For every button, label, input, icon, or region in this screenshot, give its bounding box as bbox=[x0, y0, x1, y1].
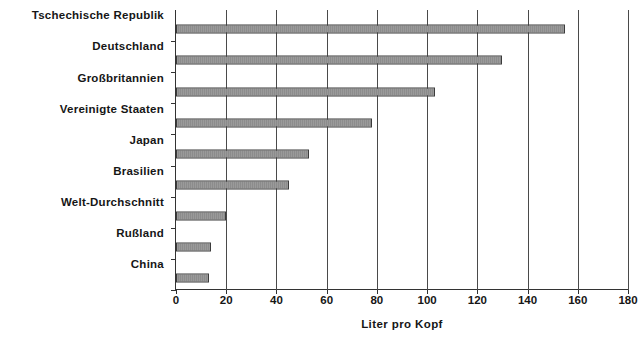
category-label: Rußland bbox=[0, 227, 164, 239]
category-label: Japan bbox=[0, 134, 164, 146]
category-label: Deutschland bbox=[0, 40, 164, 52]
bar bbox=[176, 180, 289, 189]
category-label: Welt-Durchschnitt bbox=[0, 196, 164, 208]
x-axis-tick-label: 160 bbox=[568, 294, 587, 306]
category-axis: Tschechische RepublikDeutschlandGroßbrit… bbox=[0, 10, 170, 290]
bar bbox=[176, 118, 372, 127]
gridline bbox=[327, 10, 328, 291]
bar bbox=[176, 149, 309, 158]
x-axis-line bbox=[175, 289, 629, 290]
bar bbox=[176, 87, 435, 96]
x-axis-tick-labels: 020406080100120140160180 bbox=[176, 294, 628, 312]
x-axis-tick-label: 60 bbox=[320, 294, 333, 306]
x-axis-tick-label: 0 bbox=[173, 294, 179, 306]
bar bbox=[176, 274, 209, 283]
y-axis-tick bbox=[171, 41, 176, 42]
gridline bbox=[377, 10, 378, 291]
x-axis-tick-label: 20 bbox=[220, 294, 233, 306]
x-axis-tick-label: 80 bbox=[370, 294, 383, 306]
x-axis-tick-label: 140 bbox=[518, 294, 537, 306]
y-axis-tick bbox=[171, 197, 176, 198]
bar bbox=[176, 56, 502, 65]
y-axis-tick bbox=[171, 259, 176, 260]
x-axis-tick-label: 120 bbox=[468, 294, 487, 306]
bar-chart: Tschechische RepublikDeutschlandGroßbrit… bbox=[0, 0, 639, 342]
y-axis-tick bbox=[171, 103, 176, 104]
x-axis-tick-label: 100 bbox=[418, 294, 437, 306]
x-axis-title: Liter pro Kopf bbox=[176, 318, 628, 330]
bar bbox=[176, 243, 211, 252]
y-axis-tick bbox=[171, 134, 176, 135]
y-axis-tick bbox=[171, 166, 176, 167]
category-label: Großbritannien bbox=[0, 72, 164, 84]
gridline bbox=[628, 10, 629, 291]
gridline bbox=[477, 10, 478, 291]
y-axis-tick bbox=[171, 228, 176, 229]
x-axis-tick-label: 180 bbox=[618, 294, 637, 306]
bar bbox=[176, 25, 565, 34]
category-label: China bbox=[0, 258, 164, 270]
x-axis-tick-label: 40 bbox=[270, 294, 283, 306]
category-label: Tschechische Republik bbox=[0, 9, 164, 21]
gridline bbox=[578, 10, 579, 291]
y-axis-tick bbox=[171, 72, 176, 73]
plot-area bbox=[176, 10, 628, 290]
y-axis-tick bbox=[171, 290, 176, 291]
gridline bbox=[528, 10, 529, 291]
gridline bbox=[427, 10, 428, 291]
category-label: Brasilien bbox=[0, 165, 164, 177]
bar bbox=[176, 211, 226, 220]
category-label: Vereinigte Staaten bbox=[0, 103, 164, 115]
